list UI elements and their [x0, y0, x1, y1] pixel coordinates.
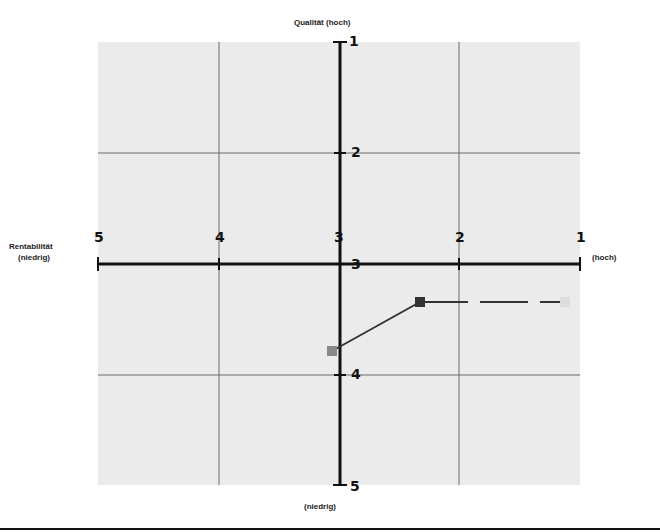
y-tick-2: 2 — [351, 144, 361, 160]
x-tick-5: 5 — [94, 229, 104, 245]
y-tick-4: 4 — [351, 366, 361, 382]
x-axis-label-right: (hoch) — [592, 253, 616, 262]
y-tick-3: 3 — [351, 256, 361, 272]
bottom-divider — [0, 528, 660, 530]
quadrant-chart: Qualität (hoch) (niedrig) Rentabilität (… — [0, 0, 660, 532]
data-point-start — [327, 346, 337, 356]
x-tick-1: 1 — [576, 229, 586, 245]
x-tick-2: 2 — [455, 229, 465, 245]
y-axis-label-top: Qualität (hoch) — [294, 18, 350, 27]
y-tick-1: 1 — [349, 33, 359, 49]
y-axis-label-bottom: (niedrig) — [304, 502, 336, 511]
x-axis-label-left-line1: Rentabilität — [9, 242, 53, 251]
chart-plot — [0, 0, 660, 532]
x-axis-label-left-line2: (niedrig) — [18, 253, 50, 262]
x-tick-3: 3 — [334, 229, 344, 245]
y-tick-5: 5 — [350, 478, 360, 494]
data-point-mid — [415, 297, 425, 307]
data-point-end — [560, 297, 570, 307]
x-tick-4: 4 — [215, 229, 225, 245]
